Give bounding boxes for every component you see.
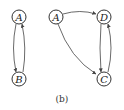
edge-b-to-a xyxy=(22,24,25,72)
svg-text:C: C xyxy=(100,74,108,85)
edge-a-to-c xyxy=(58,24,96,74)
edge-a-to-d xyxy=(63,12,96,15)
edge-a-to-b xyxy=(14,24,17,72)
node-a-right: A xyxy=(49,10,63,24)
svg-text:A: A xyxy=(14,12,22,23)
edge-c-to-d xyxy=(108,24,111,72)
svg-text:D: D xyxy=(99,12,108,23)
node-c-right: C xyxy=(97,72,111,86)
node-a-left: A xyxy=(12,10,26,24)
node-b-left: B xyxy=(12,72,26,86)
node-d-right: D xyxy=(97,10,111,24)
svg-text:B: B xyxy=(14,74,22,85)
figure-caption: (b) xyxy=(0,94,124,104)
edge-d-to-c xyxy=(100,24,101,72)
svg-text:A: A xyxy=(51,12,59,23)
